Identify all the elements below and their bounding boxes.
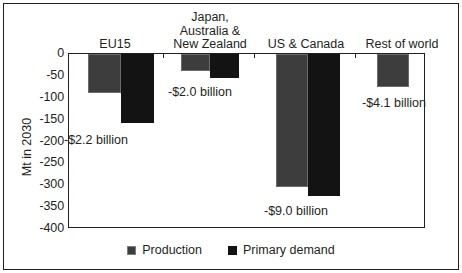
bar-eu15-primary-demand — [121, 54, 154, 123]
value-note-eu15: -$2.2 billion — [64, 133, 128, 147]
legend-swatch-production-icon — [127, 246, 136, 255]
category-label-us-canada: US & Canada — [258, 38, 354, 51]
y-tick-label-350: -350 — [6, 199, 64, 213]
y-tick-label-0: 0 — [6, 46, 64, 60]
y-tick-label-400: -400 — [6, 221, 64, 235]
chart-legend: Production Primary demand — [0, 243, 462, 257]
bar-us-canada-production — [276, 54, 308, 187]
legend-label-primary-demand: Primary demand — [243, 243, 335, 257]
x-separator-3 — [355, 53, 356, 58]
bar-rest-of-world-production — [377, 54, 409, 87]
value-note-rest-of-world: -$4.1 billion — [362, 96, 426, 110]
y-tick-label-250: -250 — [6, 155, 64, 169]
chart-figure: 0 -50 -100 -150 -200 -250 -300 -350 -400… — [0, 0, 462, 273]
legend-label-production: Production — [142, 243, 202, 257]
bar-eu15-production — [88, 54, 121, 93]
y-tick-label-150: -150 — [6, 112, 64, 126]
category-label-rest-of-world: Rest of world — [358, 38, 446, 51]
y-tick-label-200: -200 — [6, 134, 64, 148]
legend-item-production: Production — [127, 243, 202, 257]
bar-japan-australia-nz-primary-demand — [210, 54, 239, 78]
y-tick-label-300: -300 — [6, 177, 64, 191]
value-note-us-canada: -$9.0 billion — [264, 204, 328, 218]
category-label-japan-australia-nz-line1: Japan, — [168, 11, 252, 24]
category-label-eu15: EU15 — [75, 38, 155, 51]
bar-us-canada-primary-demand — [308, 54, 340, 196]
legend-item-primary-demand: Primary demand — [228, 243, 335, 257]
category-label-japan-australia-nz-line3: New Zealand — [168, 38, 252, 51]
legend-swatch-primary-demand-icon — [228, 246, 237, 255]
y-axis-title: Mt in 2030 — [20, 87, 34, 207]
x-separator-2 — [254, 53, 255, 58]
bar-japan-australia-nz-production — [181, 54, 210, 71]
value-note-japan-australia-nz: -$2.0 billion — [168, 85, 232, 99]
y-tick-label-50: -50 — [6, 68, 64, 82]
y-tick-label-100: -100 — [6, 90, 64, 104]
category-label-japan-australia-nz-line2: Australia & — [168, 25, 252, 38]
x-separator-1 — [163, 53, 164, 58]
